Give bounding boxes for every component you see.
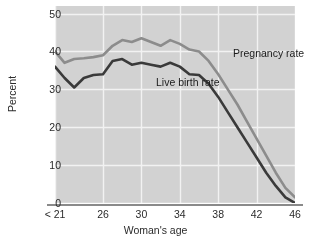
pregnancy-live-birth-rate-chart: Pregnancy rate Live birth rate 504030201… xyxy=(0,0,311,246)
x-tick-label: 38 xyxy=(198,208,238,220)
y-tick-label: 50 xyxy=(15,9,61,19)
x-axis-title: Woman's age xyxy=(0,224,311,236)
y-tick-label: 10 xyxy=(15,160,61,170)
y-tick-label: 20 xyxy=(15,122,61,132)
y-tick-label: 40 xyxy=(15,46,61,56)
series-label-pregnancy-rate: Pregnancy rate xyxy=(233,47,304,59)
y-tick-label: 0 xyxy=(15,198,61,208)
series-label-live-birth-rate: Live birth rate xyxy=(156,76,220,88)
x-tick-label: 30 xyxy=(121,208,161,220)
x-axis-line xyxy=(47,204,303,206)
x-tick-label: 26 xyxy=(83,208,123,220)
x-tick-label: < 21 xyxy=(35,208,75,220)
plot-area: Pregnancy rate Live birth rate xyxy=(55,6,295,203)
y-tick-label: 30 xyxy=(15,84,61,94)
x-tick-label: 34 xyxy=(160,208,200,220)
x-tick-label: 42 xyxy=(237,208,277,220)
x-tick-label: 46 xyxy=(275,208,311,220)
chart-canvas xyxy=(55,6,295,203)
y-axis-title: Percent xyxy=(6,56,18,132)
